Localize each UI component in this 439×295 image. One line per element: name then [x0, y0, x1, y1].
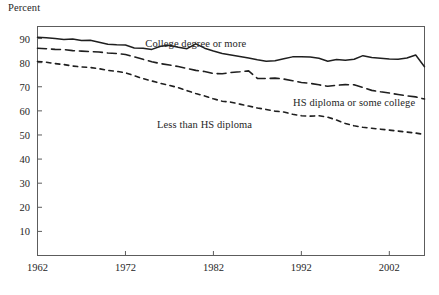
y-tick-label: 70 — [8, 81, 30, 92]
series-annotation: HS diploma or some college — [293, 97, 415, 108]
y-tick-label: 20 — [8, 202, 30, 213]
x-tick-label: 1972 — [105, 262, 145, 273]
y-tick-label: 10 — [8, 226, 30, 237]
y-tick-label: 80 — [8, 57, 30, 68]
y-tick-label: 30 — [8, 178, 30, 189]
x-tick-label: 2002 — [369, 262, 409, 273]
x-tick-label: 1982 — [193, 262, 233, 273]
x-tick-label: 1992 — [281, 262, 321, 273]
chart-figure: Percent 102030405060708090 1962197219821… — [0, 0, 439, 295]
x-tick-label: 1962 — [18, 262, 58, 273]
y-tick-label: 50 — [8, 129, 30, 140]
y-tick-marks — [38, 39, 43, 232]
series-annotation: Less than HS diploma — [157, 119, 252, 130]
x-tick-marks — [38, 251, 390, 256]
series-annotation: College degree or more — [145, 38, 246, 49]
y-tick-label: 40 — [8, 154, 30, 165]
y-tick-label: 60 — [8, 105, 30, 116]
y-tick-label: 90 — [8, 33, 30, 44]
plot-frame — [38, 27, 425, 256]
